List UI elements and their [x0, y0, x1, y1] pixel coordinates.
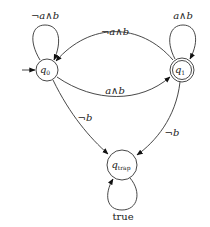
state-q0-subscript: 0 [46, 69, 50, 76]
edge-label-q1-q0: ¬a∧b [101, 26, 129, 37]
state-q1: q1 [170, 58, 194, 82]
edge-label-q0-q1: a∧b [105, 85, 125, 96]
edge-qtrap-qtrap [108, 178, 137, 210]
state-qtrap: qtrap [107, 150, 137, 180]
edge-label-q1-q1: a∧b [173, 10, 193, 21]
state-qtrap-subscript: trap [118, 164, 131, 172]
edge-label-qtrap-qtrap: true [112, 211, 133, 222]
automaton-diagram: ¬a∧b a∧b ¬a∧b a∧b ¬b ¬b true q0 q1 qtrap [0, 0, 210, 227]
edge-label-q0-qtrap: ¬b [78, 112, 93, 123]
edge-label-q0-q0: ¬a∧b [31, 10, 59, 21]
edge-q1-q1 [170, 25, 196, 59]
edge-q1-qtrap [137, 82, 180, 155]
edge-label-q1-qtrap: ¬b [165, 127, 180, 138]
state-q0: q0 [36, 59, 58, 81]
edge-q0-q0 [33, 25, 59, 60]
state-q1-subscript: 1 [181, 69, 185, 76]
